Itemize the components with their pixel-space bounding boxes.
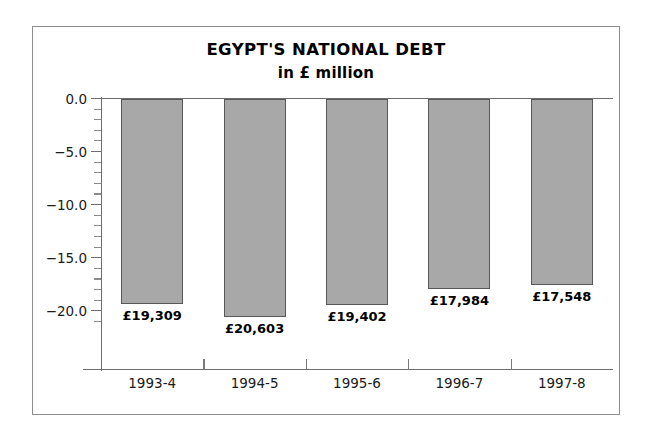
category-tick: [408, 359, 409, 369]
y-tick-minor: [94, 321, 101, 322]
bar-value-label: £17,548: [532, 289, 591, 304]
category-tick: [306, 359, 307, 369]
y-axis-tick-label: −15.0: [35, 250, 87, 266]
y-tick-minor: [94, 183, 101, 184]
bar-value-label: £20,603: [225, 321, 284, 336]
y-axis-tick-label: 0.0: [35, 91, 87, 107]
category-label: 1997-8: [538, 375, 586, 391]
bar[interactable]: [428, 99, 490, 290]
bar[interactable]: [531, 99, 593, 285]
category-axis-line: [83, 369, 613, 370]
y-tick-minor: [94, 247, 101, 248]
y-tick-minor: [94, 300, 101, 301]
y-axis-line: [101, 97, 102, 371]
y-tick-major: [91, 151, 101, 152]
bar-value-label: £19,402: [327, 309, 386, 324]
y-axis-tick-label: −5.0: [35, 144, 87, 160]
y-tick-minor: [94, 119, 101, 120]
plot-area: 0.0−5.0−10.0−15.0−20.0 £19,309£20,603£19…: [33, 27, 619, 414]
y-tick-minor: [94, 215, 101, 216]
y-tick-minor: [94, 130, 101, 131]
y-axis-tick-label: −10.0: [35, 197, 87, 213]
y-tick-minor: [94, 172, 101, 173]
category-label: 1993-4: [128, 375, 176, 391]
y-axis-tick-label: −20.0: [35, 303, 87, 319]
y-tick-minor: [94, 236, 101, 237]
y-tick-major: [91, 257, 101, 258]
category-label: 1996-7: [435, 375, 483, 391]
y-tick-minor: [94, 289, 101, 290]
y-tick-minor: [94, 225, 101, 226]
bar-value-label: £19,309: [123, 308, 182, 323]
bar[interactable]: [224, 99, 286, 318]
y-tick-minor: [94, 278, 101, 279]
bar-value-label: £17,984: [430, 293, 489, 308]
y-tick-major: [91, 310, 101, 311]
y-tick-minor: [94, 162, 101, 163]
y-tick-minor: [94, 140, 101, 141]
chart-figure: EGYPT'S NATIONAL DEBT in £ million 0.0−5…: [32, 26, 620, 415]
bar[interactable]: [326, 99, 388, 305]
y-tick-minor: [94, 109, 101, 110]
category-label: 1994-5: [231, 375, 279, 391]
y-tick-minor: [94, 268, 101, 269]
bar[interactable]: [121, 99, 183, 304]
category-label: 1995-6: [333, 375, 381, 391]
category-tick: [203, 359, 204, 369]
y-tick-major: [91, 204, 101, 205]
y-tick-major: [91, 98, 101, 99]
category-tick: [511, 359, 512, 369]
y-tick-minor: [94, 193, 101, 194]
